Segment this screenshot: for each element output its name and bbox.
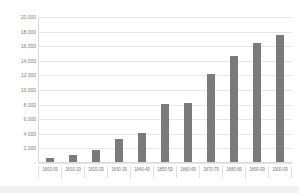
bar-slot (61, 16, 84, 162)
y-axis: -2,0004,0006,0008,00010,00012,00014,0001… (0, 17, 36, 163)
y-axis-tick-label: 16,000 (2, 43, 36, 49)
y-axis-tick-label: 4,000 (2, 131, 36, 137)
y-axis-tick-label: 8,000 (2, 102, 36, 108)
bar[interactable] (184, 103, 192, 162)
bar[interactable] (161, 104, 169, 162)
plot-area (38, 17, 292, 163)
bar-slot (130, 16, 153, 162)
y-axis-tick-label: 18,000 (2, 29, 36, 35)
bar-slot (177, 16, 200, 162)
bar[interactable] (276, 35, 284, 162)
y-axis-tick-label: 14,000 (2, 58, 36, 64)
right-margin (296, 0, 299, 186)
x-axis-tick-label: 1890-99 (245, 166, 268, 178)
y-axis-tick-label: 10,000 (2, 87, 36, 93)
x-axis-tick-label: 1900-09 (268, 166, 292, 178)
x-axis-tick-label: 1800-09 (38, 166, 61, 178)
y-axis-tick-label: 12,000 (2, 72, 36, 78)
bar-slot (269, 16, 292, 162)
y-axis-tick-label: 20,000 (2, 14, 36, 20)
bottom-band (0, 186, 299, 193)
bar-slot (200, 16, 223, 162)
bar[interactable] (92, 150, 100, 162)
x-axis-tick-label: 1850-59 (153, 166, 176, 178)
bar-slot (38, 16, 61, 162)
x-axis-tick-label: 1840-49 (130, 166, 153, 178)
x-axis: 1800-091810-191820-291830-391840-491850-… (38, 166, 292, 178)
bar-slot (246, 16, 269, 162)
x-axis-tick-label: 1860-69 (176, 166, 199, 178)
bar-slot (107, 16, 130, 162)
bar-slot (84, 16, 107, 162)
bar[interactable] (230, 56, 238, 162)
bar[interactable] (138, 133, 146, 162)
bar-slot (153, 16, 176, 162)
y-axis-tick-label: 2,000 (2, 145, 36, 151)
x-axis-tick-label: 1820-29 (84, 166, 107, 178)
bar[interactable] (207, 74, 215, 162)
y-axis-tick-label: 6,000 (2, 116, 36, 122)
x-axis-tick-label: 1880-89 (222, 166, 245, 178)
bar[interactable] (253, 43, 261, 162)
x-axis-line (38, 162, 292, 163)
y-axis-tick-label: - (2, 160, 36, 166)
x-axis-tick-label: 1870-79 (199, 166, 222, 178)
chart-figure: -2,0004,0006,0008,00010,00012,00014,0001… (0, 0, 299, 193)
gridline (38, 163, 292, 164)
bar-slot (223, 16, 246, 162)
bar[interactable] (115, 139, 123, 162)
bar-series (38, 16, 292, 162)
x-axis-tick-label: 1810-19 (61, 166, 84, 178)
x-axis-tick-label: 1830-39 (107, 166, 130, 178)
